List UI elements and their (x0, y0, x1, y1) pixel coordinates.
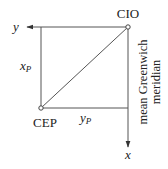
cep-point (39, 106, 43, 110)
xp-label-sub: P (25, 64, 32, 74)
meridian-label-line1: mean Greenwich (136, 39, 150, 125)
cio-label: CIO (117, 6, 139, 21)
xp-label: xP (19, 58, 32, 74)
cep-label: CEP (33, 115, 57, 130)
cio-cep-diagonal (41, 27, 128, 108)
yp-label-sub: P (85, 116, 92, 126)
x-axis-label: x (124, 147, 131, 162)
meridian-label-line2: meridian (149, 59, 163, 104)
polar-motion-diagram: CIO CEP y x xP yP mean Greenwich meridia… (0, 0, 168, 169)
yp-label: yP (78, 110, 92, 126)
cio-point (126, 25, 130, 29)
y-axis-label: y (11, 19, 19, 34)
